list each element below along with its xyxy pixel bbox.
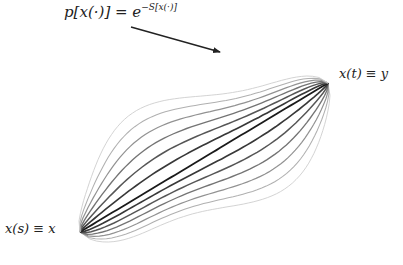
start-point-label: x(s) ≡ x (5, 221, 56, 236)
sample-path (80, 83, 330, 242)
end-point-label: x(t) ≡ y (339, 66, 388, 81)
sample-path (80, 83, 328, 232)
sample-paths (79, 76, 330, 242)
arrow-pointer (131, 27, 220, 52)
path-ensemble-diagram (0, 0, 403, 265)
